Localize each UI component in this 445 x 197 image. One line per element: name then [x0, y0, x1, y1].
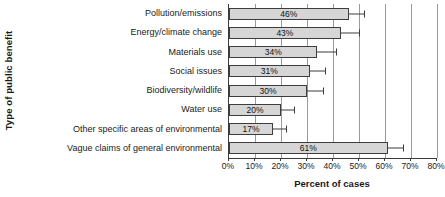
bar-row: 31%: [229, 62, 436, 81]
error-bar-line: [307, 90, 323, 91]
x-axis-tick: [358, 158, 359, 161]
bar-value-label: 20%: [246, 106, 263, 115]
error-bar-line: [341, 32, 359, 33]
error-bar-line: [349, 13, 365, 14]
x-axis-tick-label: 40%: [323, 162, 340, 171]
x-axis-title: Percent of cases: [228, 178, 436, 189]
error-bar-cap: [364, 10, 365, 17]
x-axis-tick: [410, 158, 411, 161]
bar-value-label: 31%: [261, 67, 278, 76]
bar-row: 46%: [229, 4, 436, 23]
category-label: Water use: [18, 100, 226, 119]
category-label: Biodiversity/wildlife: [18, 81, 226, 100]
error-bar-cap: [336, 49, 337, 56]
bar-row: 43%: [229, 23, 436, 42]
bar-value-label: 43%: [276, 29, 293, 38]
error-bar-line: [310, 71, 326, 72]
bar-value-label: 30%: [259, 86, 276, 95]
x-axis-tick-label: 60%: [375, 162, 392, 171]
x-axis-tick: [332, 158, 333, 161]
gridline: [437, 4, 438, 158]
category-label: Materials use: [18, 43, 226, 62]
y-axis-title: Type of public benefit: [0, 0, 18, 160]
x-axis-tick: [384, 158, 385, 161]
error-bar-line: [388, 148, 404, 149]
error-bar-line: [281, 109, 294, 110]
error-bar-cap: [325, 68, 326, 75]
x-axis-tick: [306, 158, 307, 161]
x-axis-tick: [228, 158, 229, 161]
bar-value-label: 61%: [300, 144, 317, 153]
category-label: Social issues: [18, 62, 226, 81]
plot-area: 46%43%34%31%30%20%17%61%: [228, 4, 436, 158]
category-label-column: Pollution/emissions Energy/climate chang…: [18, 4, 226, 158]
error-bar-cap: [359, 29, 360, 36]
error-bar-line: [317, 52, 335, 53]
x-axis-tick-label: 50%: [349, 162, 366, 171]
error-bar-cap: [323, 87, 324, 94]
x-axis-tick-label: 0%: [222, 162, 234, 171]
bar-row: 61%: [229, 139, 436, 158]
x-tick-labels: 0%10%20%30%40%50%60%70%80%: [228, 162, 436, 174]
x-axis-tick-label: 80%: [427, 162, 444, 171]
bar-row: 30%: [229, 81, 436, 100]
x-axis-tick: [436, 158, 437, 161]
y-axis-title-text: Type of public benefit: [4, 30, 15, 130]
error-bar-cap: [286, 126, 287, 133]
category-label: Pollution/emissions: [18, 4, 226, 23]
x-axis-tick-label: 30%: [297, 162, 314, 171]
bar-row: 17%: [229, 120, 436, 139]
category-label: Vague claims of general environmental: [18, 139, 226, 158]
bar-row: 34%: [229, 43, 436, 62]
category-label: Other specific areas of environmental: [18, 120, 226, 139]
bar-value-label: 34%: [265, 48, 282, 57]
bar-rows: 46%43%34%31%30%20%17%61%: [229, 4, 436, 158]
error-bar-cap: [294, 106, 295, 113]
error-bar-line: [273, 129, 286, 130]
bar-value-label: 17%: [243, 125, 260, 134]
x-axis-tick: [280, 158, 281, 161]
bar-row: 20%: [229, 100, 436, 119]
x-axis-tick: [254, 158, 255, 161]
error-bar-cap: [403, 145, 404, 152]
bar-value-label: 46%: [280, 9, 297, 18]
x-axis-tick-label: 20%: [271, 162, 288, 171]
category-label: Energy/climate change: [18, 23, 226, 42]
x-axis-tick-label: 10%: [245, 162, 262, 171]
x-axis-tick-label: 70%: [401, 162, 418, 171]
